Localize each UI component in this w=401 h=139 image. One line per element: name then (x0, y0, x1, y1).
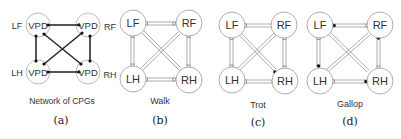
node-label-rh: RH (372, 75, 388, 87)
panel-c-caption: (c) (251, 116, 266, 129)
node-label-rf: RF (182, 17, 197, 29)
vpd-label-rf: VPD (78, 20, 98, 31)
panel-d-caption: (d) (342, 115, 358, 128)
outer-label-lh: LH (11, 68, 23, 78)
vpd-label-lf: VPD (28, 20, 48, 31)
node-label-rf: RF (373, 19, 388, 31)
vpd-label-rh: VPD (78, 67, 98, 78)
outer-label-rf: RF (104, 22, 116, 32)
node-label-lf: LF (226, 19, 239, 31)
panel-b-walk: LF RF LH RH Walk (b) (120, 10, 202, 127)
panel-a-title: Network of CPGs (29, 96, 95, 106)
node-label-rh: RH (277, 75, 293, 87)
panel-d-title: Gallop (337, 99, 363, 109)
node-label-lh: LH (225, 74, 239, 86)
panel-c-trot: LF RF LH RH Trot (c) (219, 12, 298, 129)
cpg-gait-diagrams: VPD VPD VPD VPD LF RF LH RH Network of C… (0, 0, 401, 139)
panel-b-caption: (b) (152, 114, 168, 127)
panel-b-title: Walk (150, 96, 170, 106)
node-label-lf: LF (127, 17, 140, 29)
node-label-rf: RF (277, 19, 292, 31)
node-label-rh: RH (181, 74, 197, 86)
panel-c-title: Trot (250, 100, 266, 110)
panel-a-network: VPD VPD VPD VPD LF RF LH RH Network of C… (11, 13, 116, 127)
vpd-label-lh: VPD (28, 67, 48, 78)
node-label-lh: LH (313, 75, 327, 87)
panel-d-gallop: LF RF LH RH Gallop (d) (307, 12, 393, 128)
outer-label-lf: LF (12, 21, 23, 31)
outer-label-rh: RH (104, 70, 117, 80)
node-label-lf: LF (314, 19, 327, 31)
node-label-lh: LH (126, 73, 140, 85)
panel-a-caption: (a) (53, 114, 68, 127)
